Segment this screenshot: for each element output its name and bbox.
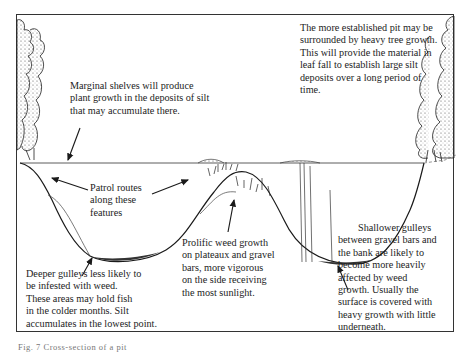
annotation-established-pit: The more established pit may be surround… [300,22,437,96]
text-line: time. [300,84,437,96]
text-line: deposits over a long period of [300,72,437,84]
text-line: the bank are likely to [338,247,437,259]
arrow-patrol-left [52,178,88,190]
text-line: underneath. [338,321,437,333]
text-line: surrounded by heavy tree growth. [300,34,437,46]
text-line: between gravel bars and [338,234,437,246]
arrow-patrol-right [152,180,188,194]
text-line: in the colder months. Silt [26,305,157,317]
annotation-patrol-routes: Patrol routes along these features [90,182,142,219]
text-line: bars, more vigorous [182,262,275,274]
annotation-shallower-gulleys: Shallower gulleys between gravel bars an… [338,222,437,334]
text-line: Shallower gulleys [338,222,437,234]
text-line: This will provide the material in [300,47,437,59]
text-line: surface is covered with [338,296,437,308]
text-line: the most sunlight. [182,287,275,299]
arrow-marginal-shelves [68,128,80,160]
text-line: accumulates in the lowest point. [26,318,157,330]
text-line: on the side receiving [182,274,275,286]
weed-growth-icon [208,162,270,196]
text-line: become more heavily [338,259,437,271]
arrow-prolific-weed [228,200,234,232]
text-line: growth. Usually the [338,284,437,296]
text-line: Prolific weed growth [182,237,275,249]
text-line: features [90,207,142,219]
text-line: leaf fall to establish large silt [300,59,437,71]
annotation-deeper-gulleys: Deeper gulleys less likely to be infeste… [26,268,157,330]
text-line: plant growth in the deposits of silt [70,92,209,104]
text-line: be infested with weed. [26,280,157,292]
text-line: Deeper gulleys less likely to [26,268,157,280]
text-line: These areas may hold fish [26,293,157,305]
text-line: Marginal shelves will produce [70,80,209,92]
annotation-prolific-weed: Prolific weed growth on plateaux and gra… [182,237,275,299]
text-line: that may accumulate there. [70,105,209,117]
text-line: on plateaux and gravel [182,249,275,261]
left-trees-icon [17,20,45,160]
text-line: Patrol routes [90,182,142,194]
text-line: along these [90,194,142,206]
annotation-marginal-shelves: Marginal shelves will produce plant grow… [70,80,209,117]
figure-caption: Fig. 7 Cross-section of a pit [18,342,127,352]
text-line: The more established pit may be [300,22,437,34]
text-line: affected by weed [338,272,437,284]
text-line: heavy growth with little [338,309,437,321]
